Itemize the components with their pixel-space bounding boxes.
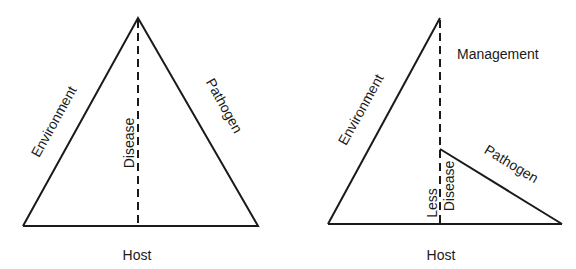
diagram-canvas: Environment Pathogen Disease Host Manage… xyxy=(0,0,576,269)
label-environment: Environment xyxy=(28,83,80,160)
label-environment: Environment xyxy=(335,71,387,148)
label-management: Management xyxy=(457,46,539,62)
label-host: Host xyxy=(123,247,152,263)
label-pathogen: Pathogen xyxy=(203,75,246,135)
label-host: Host xyxy=(427,247,456,263)
label-less: Less xyxy=(424,188,440,218)
diagram-svg: Environment Pathogen Disease Host Manage… xyxy=(0,0,576,269)
disease-triangle: Environment Pathogen Disease Host xyxy=(23,18,258,263)
disease-pyramid-with-management: Management Environment Pathogen Less Dis… xyxy=(328,18,562,263)
label-disease: Disease xyxy=(441,161,457,212)
label-disease: Disease xyxy=(121,118,137,169)
